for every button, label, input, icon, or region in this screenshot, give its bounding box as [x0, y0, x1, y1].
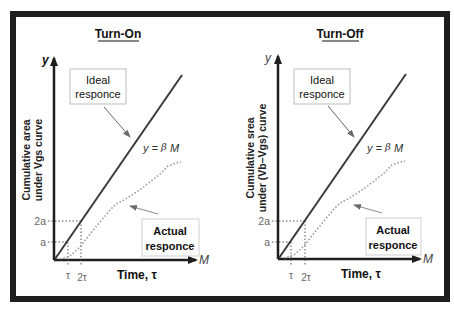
- actual-callout-arrow: [130, 206, 158, 214]
- y-tick-a: a: [40, 236, 46, 248]
- actual-label-line1: Actual: [153, 225, 187, 237]
- equation: y = β M: [366, 141, 404, 154]
- ideal-callout-arrow: [328, 106, 354, 137]
- y-tick-2a: 2a: [258, 215, 270, 227]
- y-axis-label-line2: under Vgs curve: [32, 119, 44, 201]
- y-axis-symbol: y: [264, 51, 272, 65]
- x-axis-label: Time, τ: [341, 267, 381, 281]
- x-axis-label: Time, τ: [117, 268, 157, 282]
- actual-label-line1: Actual: [376, 224, 410, 236]
- ideal-label-line2: responce: [299, 88, 344, 100]
- x-tick-tau: τ: [289, 270, 293, 281]
- ideal-label-line1: Ideal: [310, 74, 334, 86]
- x-axis-symbol: M: [423, 252, 433, 266]
- equation: y = β M: [142, 141, 180, 154]
- y-tick-a: a: [264, 236, 270, 248]
- y-axis-label-line1: Cumulative srea: [244, 117, 256, 198]
- actual-label-line2: responce: [146, 240, 195, 252]
- y-axis-label-line2: under (Vb–Vgs) curve: [256, 104, 268, 213]
- y-tick-2a: 2a: [34, 215, 46, 227]
- x-axis-symbol: M: [199, 253, 209, 267]
- x-tick-tau: τ: [66, 270, 70, 281]
- x-tick-2tau: 2τ: [301, 272, 311, 283]
- diagram-canvas: Turn-On y M Cumulative area under Vgs cu…: [0, 0, 454, 310]
- panel-turn-on: Turn-On y M Cumulative area under Vgs cu…: [20, 27, 209, 283]
- ideal-label-line2: responce: [75, 88, 120, 100]
- ideal-label-line1: Ideal: [86, 74, 110, 86]
- panel-turn-off: Turn-Off y M Cumulative srea under (Vb–V…: [244, 27, 433, 283]
- x-tick-2tau: 2τ: [77, 272, 87, 283]
- actual-callout-arrow: [354, 205, 382, 213]
- actual-label-line2: responce: [369, 239, 418, 251]
- panel-title: Turn-On: [95, 27, 141, 41]
- y-axis-label-line1: Cumulative area: [20, 119, 32, 200]
- y-axis-symbol: y: [41, 53, 50, 67]
- ideal-callout-arrow: [104, 107, 130, 137]
- panel-title: Turn-Off: [316, 27, 364, 41]
